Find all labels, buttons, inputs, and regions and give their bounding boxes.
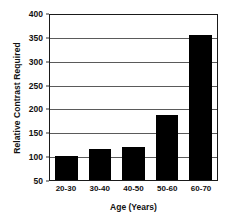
y-axis-tick-label: 200 — [21, 105, 43, 114]
x-axis-tick-label: 30-40 — [83, 183, 117, 195]
x-axis-tick-label: 50-60 — [150, 183, 184, 195]
bar-slot — [150, 15, 183, 180]
x-axis-title: Age (Years) — [49, 201, 218, 213]
plot-area — [49, 14, 218, 181]
bar-slot — [117, 15, 150, 180]
bar-slot — [184, 15, 217, 180]
y-axis-tick-label: 400 — [21, 10, 43, 19]
bar-30-40 — [89, 149, 112, 180]
bar-chart: Relative Contrast Required 5010015020025… — [0, 0, 238, 223]
x-axis-tick-label: 20-30 — [49, 183, 83, 195]
x-axis-tick-labels: 20-3030-4040-5050-6060-70 — [49, 183, 218, 195]
bar-slot — [50, 15, 83, 180]
bar-series — [50, 15, 217, 180]
bar-40-50 — [122, 147, 145, 180]
bar-60-70 — [189, 35, 212, 180]
y-axis-tick-label: 250 — [21, 81, 43, 90]
y-axis-tick-label: 350 — [21, 34, 43, 43]
x-axis-tick-label: 40-50 — [117, 183, 151, 195]
y-axis-tick-label: 150 — [21, 129, 43, 138]
y-axis-tick-label: 100 — [21, 153, 43, 162]
bar-20-30 — [55, 156, 78, 180]
y-axis-tick-label: 300 — [21, 57, 43, 66]
x-axis-tick-label: 60-70 — [184, 183, 218, 195]
y-axis-tick-labels: 50100150200250300350400 — [24, 14, 46, 181]
y-axis-tick-label: 50 — [21, 177, 43, 186]
bar-50-60 — [156, 115, 179, 180]
bar-slot — [83, 15, 116, 180]
